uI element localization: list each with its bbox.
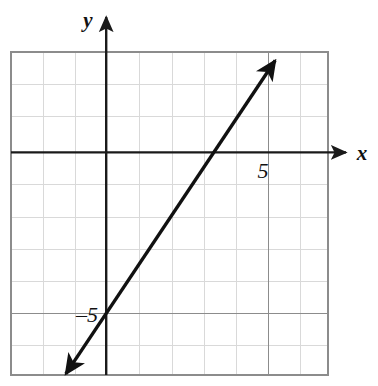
coordinate-plane-figure: y x 5 –5 [0,0,378,386]
major-gridlines [11,52,328,375]
graph-canvas: y x 5 –5 [0,0,378,386]
y-tick-label-minus5: –5 [75,302,98,327]
x-axis-label: x [356,141,368,165]
minor-gridlines [11,52,328,375]
x-tick-label-5: 5 [258,158,269,183]
plot-border [11,52,328,375]
axes-group [11,17,346,375]
y-axis-label: y [80,8,93,32]
